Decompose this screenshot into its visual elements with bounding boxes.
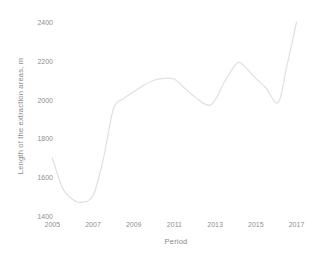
y-tick-label: 1600 — [37, 174, 53, 181]
x-tick-label: 2013 — [207, 221, 223, 228]
y-tick-label: 1400 — [37, 213, 53, 220]
line-chart: Length of the extraction areas, m Period… — [0, 0, 322, 256]
x-axis-title: Period — [165, 237, 188, 246]
x-tick-label: 2009 — [126, 221, 142, 228]
y-tick-label: 2000 — [37, 96, 53, 103]
y-axis-title: Length of the extraction areas, m — [16, 58, 25, 174]
series-line — [52, 22, 296, 203]
x-tick-label: 2007 — [85, 221, 101, 228]
y-tick-label: 2200 — [37, 57, 53, 64]
y-tick-label: 1800 — [37, 135, 53, 142]
x-tick-label: 2005 — [45, 221, 61, 228]
y-tick-label: 2400 — [37, 19, 53, 26]
x-tick-label: 2015 — [248, 221, 264, 228]
x-tick-label: 2011 — [167, 221, 182, 228]
x-tick-label: 2017 — [289, 221, 305, 228]
